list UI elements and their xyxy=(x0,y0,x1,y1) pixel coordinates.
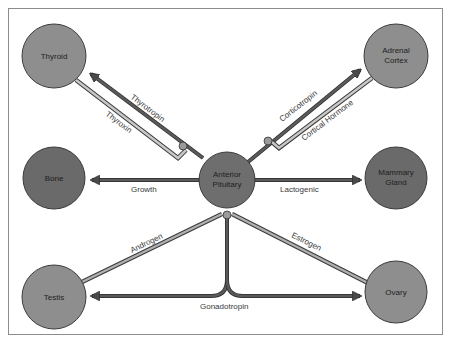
node-anterior-pituitary: Anterior Pituitary xyxy=(199,152,255,208)
edge-label-cortical-hormone: Cortical Hormone xyxy=(300,98,356,143)
pituitary-diagram: Thyroid Adrenal Cortex Bone Mammary Glan… xyxy=(0,0,451,349)
node-testis: Testis xyxy=(22,265,86,329)
node-mammary-label-1: Mammary xyxy=(378,168,414,177)
edge-label-lactogenic: Lactogenic xyxy=(280,185,319,194)
corticotropin-arrow xyxy=(248,70,360,162)
receptor-icon xyxy=(264,137,272,145)
node-testis-label: Testis xyxy=(44,293,64,302)
node-thyroid: Thyroid xyxy=(22,24,86,88)
estrogen-arrow xyxy=(232,214,368,283)
node-ovary: Ovary xyxy=(365,261,427,323)
node-ovary-label: Ovary xyxy=(385,288,406,297)
node-adrenal-label-2: Cortex xyxy=(384,56,408,65)
receptor-icon xyxy=(179,142,187,150)
androgen-arrow xyxy=(82,214,222,282)
node-thyroid-label: Thyroid xyxy=(41,52,68,61)
node-center-label-1: Anterior xyxy=(213,170,241,179)
receptor-icon xyxy=(223,211,231,219)
node-mammary-label-2: Gland xyxy=(385,178,406,187)
edge-label-growth: Growth xyxy=(131,185,157,194)
node-mammary-gland: Mammary Gland xyxy=(365,147,427,209)
edge-label-gonadotropin: Gonadotropin xyxy=(200,302,248,311)
node-center-label-2: Pituitary xyxy=(213,180,242,189)
node-adrenal-label-1: Adrenal xyxy=(382,46,410,55)
node-bone: Bone xyxy=(23,147,85,209)
thyroxin-arrow xyxy=(76,80,187,158)
node-adrenal-cortex: Adrenal Cortex xyxy=(364,24,428,88)
node-bone-label: Bone xyxy=(45,174,64,183)
